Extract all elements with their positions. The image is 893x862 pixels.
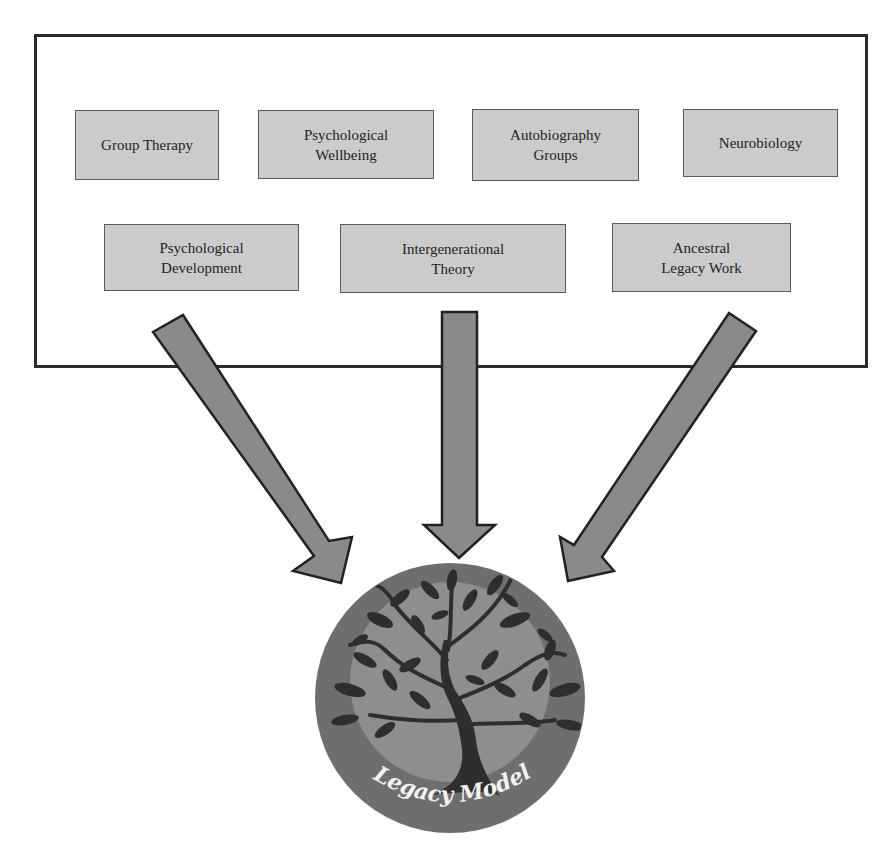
- arrow-right-icon: [560, 313, 756, 581]
- arrow-center-icon: [424, 312, 495, 558]
- diagram-graphics: Legacy Model: [0, 0, 893, 862]
- arrow-left-icon: [153, 315, 352, 583]
- legacy-model-emblem: Legacy Model: [315, 560, 585, 833]
